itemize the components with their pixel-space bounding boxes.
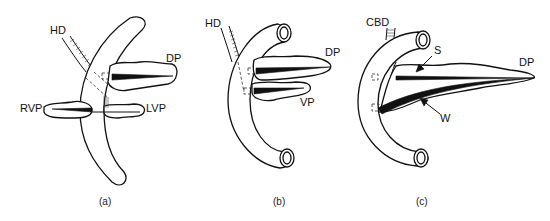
left-ventral-pancreas — [104, 104, 145, 118]
label-vp: VP — [300, 96, 315, 108]
label-dp-a: DP — [166, 52, 181, 64]
panel-c: CBD S DP W (c) — [358, 16, 534, 207]
pancreas-development-diagram: HD DP RVP LVP (a) HD DP VP (b) — [0, 0, 550, 221]
label-dp-b: DP — [325, 46, 340, 58]
label-lvp: LVP — [146, 102, 166, 114]
label-hd-a: HD — [50, 24, 66, 36]
caption-b: (b) — [273, 196, 285, 207]
label-hd-b: HD — [205, 17, 221, 29]
panel-b: HD DP VP (b) — [205, 17, 340, 207]
arrow-w — [420, 98, 440, 114]
label-dp-c: DP — [519, 56, 534, 68]
label-s: S — [434, 44, 441, 56]
caption-a: (a) — [99, 196, 111, 207]
caption-c: (c) — [416, 196, 428, 207]
duodenum-a — [80, 17, 145, 185]
label-w: W — [440, 112, 451, 124]
hepatic-duct-b — [221, 26, 240, 62]
label-rvp: RVP — [20, 102, 42, 114]
label-cbd: CBD — [366, 16, 389, 28]
panel-a: HD DP RVP LVP (a) — [20, 17, 181, 207]
